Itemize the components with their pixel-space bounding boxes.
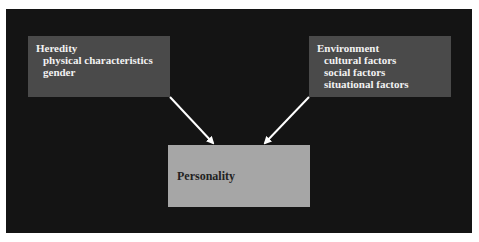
arrow-environment-to-personality xyxy=(265,97,309,143)
arrow-heredity-to-personality xyxy=(170,97,213,143)
arrows xyxy=(0,0,479,242)
